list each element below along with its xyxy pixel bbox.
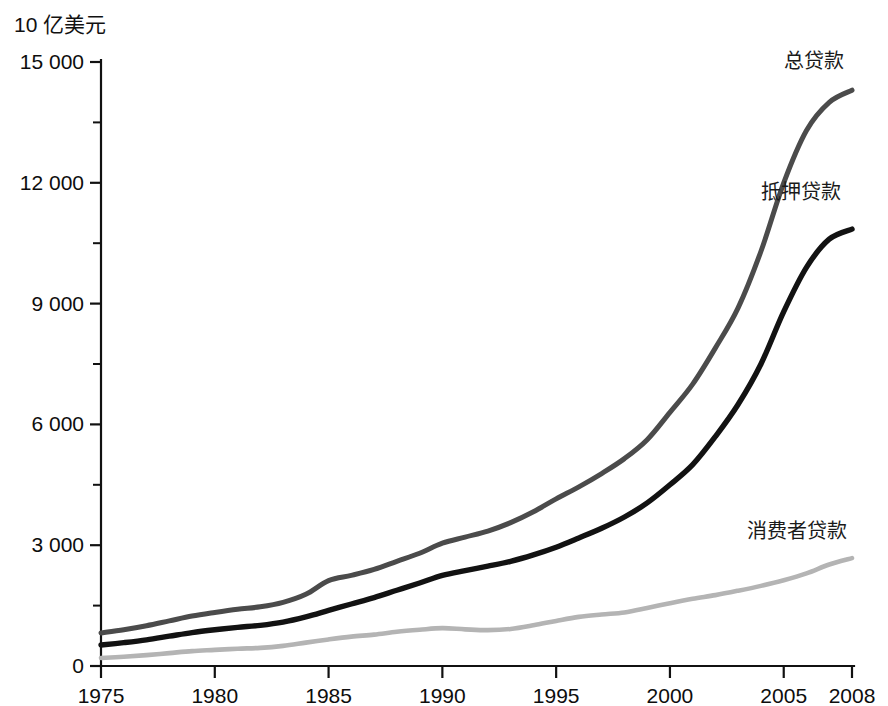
x-tick-label: 2008 [829,684,876,706]
series-label: 消费者贷款 [747,520,847,542]
series-inline-labels: 总贷款抵押贷款消费者贷款 [747,50,847,542]
y-tick-label: 12 000 [20,171,84,194]
x-tick-label: 1980 [191,684,238,706]
series-line [101,229,852,645]
x-tick-label: 2000 [647,684,694,706]
y-tick-label: 3 000 [31,533,84,556]
series-lines [101,90,852,658]
x-tick-label: 1975 [78,684,125,706]
series-label: 抵押贷款 [761,181,841,203]
y-tick-label: 15 000 [20,50,84,73]
x-axis-tick-labels: 19751980198519901995200020052008 [78,684,876,706]
y-tick-label: 9 000 [31,292,84,315]
series-line [101,558,852,658]
loans-line-chart: 10 亿美元 03 0006 0009 00012 00015 000 1975… [0,0,888,706]
y-tick-label: 6 000 [31,412,84,435]
x-tick-label: 1985 [305,684,352,706]
y-axis-tick-labels: 03 0006 0009 00012 00015 000 [20,50,84,677]
x-tick-label: 1990 [419,684,466,706]
x-tick-label: 2005 [760,684,807,706]
series-line [101,90,852,633]
y-tick-label: 0 [72,654,84,677]
series-label: 总贷款 [784,50,844,72]
chart-canvas: 03 0006 0009 00012 00015 000 19751980198… [0,0,888,706]
x-axis-ticks [101,666,852,678]
x-tick-label: 1995 [533,684,580,706]
axes-group [101,60,854,666]
y-axis-ticks [90,62,101,666]
